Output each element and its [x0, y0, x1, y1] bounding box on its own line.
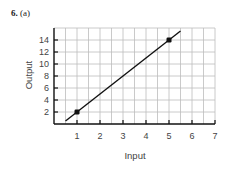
x-tick-label: 1 — [74, 131, 79, 141]
x-axis-title: Input — [124, 150, 145, 161]
x-tick-label: 7 — [212, 131, 217, 141]
data-point — [75, 110, 80, 115]
y-tick-label: 2 — [44, 107, 49, 117]
y-tick-label: 10 — [39, 59, 49, 69]
y-tick-label: 12 — [39, 47, 49, 57]
x-tick-label: 5 — [166, 131, 171, 141]
y-tick-label: 8 — [44, 71, 49, 81]
y-tick-label: 4 — [44, 95, 49, 105]
x-tick-label: 3 — [120, 131, 125, 141]
x-tick-label: 6 — [189, 131, 194, 141]
y-axis-title: Output — [23, 60, 34, 89]
y-tick-label: 14 — [39, 35, 49, 45]
chart: 12345672468101214 Input Output — [0, 0, 228, 177]
x-tick-label: 2 — [97, 131, 102, 141]
data-point — [167, 38, 172, 43]
x-tick-label: 4 — [143, 131, 148, 141]
y-tick-label: 6 — [44, 83, 49, 93]
